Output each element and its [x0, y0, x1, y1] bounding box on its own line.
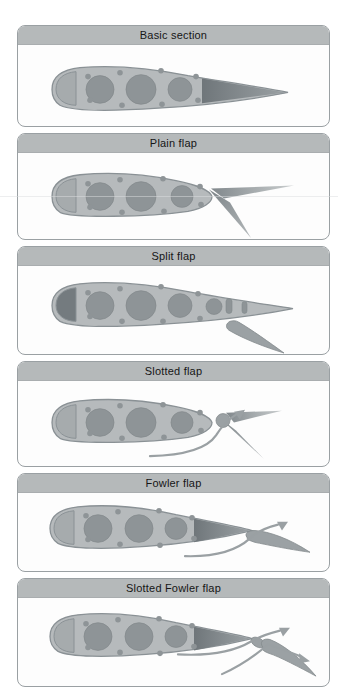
airfoil-diagram-slotted-flap-icon — [18, 381, 329, 466]
airfoil-diagram-fowler-flap-icon — [18, 493, 329, 571]
flap-types-figure: Basic section Plain flap — [17, 25, 330, 692]
panel-slotted-fowler-flap: Slotted Fowler flap — [17, 578, 330, 687]
panel-title-slotted-flap: Slotted flap — [18, 362, 329, 381]
airfoil-diagram-plain-flap-icon — [18, 153, 329, 239]
panel-slotted-flap: Slotted flap — [17, 361, 330, 467]
panel-fowler-flap: Fowler flap — [17, 473, 330, 572]
panel-basic-section: Basic section — [17, 25, 330, 127]
panel-plain-flap: Plain flap — [17, 133, 330, 240]
airfoil-diagram-basic-section-icon — [18, 45, 329, 126]
airfoil-diagram-slotted-fowler-flap-icon — [18, 598, 329, 686]
panel-title-basic-section: Basic section — [18, 26, 329, 45]
panel-title-fowler-flap: Fowler flap — [18, 474, 329, 493]
panel-title-split-flap: Split flap — [18, 247, 329, 266]
panel-title-slotted-fowler-flap: Slotted Fowler flap — [18, 579, 329, 598]
airfoil-diagram-split-flap-icon — [18, 266, 329, 354]
panel-split-flap: Split flap — [17, 246, 330, 355]
panel-title-plain-flap: Plain flap — [18, 134, 329, 153]
